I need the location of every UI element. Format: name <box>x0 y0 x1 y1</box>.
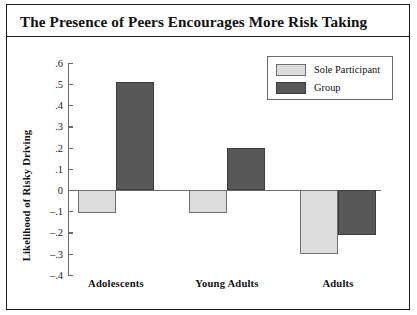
y-axis-tick-label: .5 <box>35 79 63 90</box>
bar-adolescents-group <box>116 82 154 190</box>
x-axis-label-young-adults: Young Adults <box>195 278 258 289</box>
y-axis-tick <box>68 148 73 149</box>
bar-adolescents-sole-participant <box>78 190 116 213</box>
legend-swatch-icon-sole-participant <box>276 64 306 76</box>
bar-adults-group <box>338 190 376 235</box>
bar-adults-sole-participant <box>300 190 338 254</box>
y-axis-tick-label: –.1 <box>35 206 63 217</box>
y-axis-tick-label: .6 <box>35 57 63 68</box>
y-axis-tick <box>68 126 73 127</box>
y-axis-tick <box>68 169 73 170</box>
y-axis-tick <box>68 63 73 64</box>
y-axis-tick <box>68 190 73 191</box>
chart-figure: The Presence of Peers Encourages More Ri… <box>0 0 417 315</box>
y-axis-tick-label: –.4 <box>35 269 63 280</box>
y-axis-tick-label: .1 <box>35 163 63 174</box>
y-axis-tick <box>68 105 73 106</box>
plot-area: .6.5.4.3.2.10–.1–.2–.3–.4 AdolescentsYou… <box>0 0 417 315</box>
bar-young-adults-sole-participant <box>189 190 227 213</box>
y-axis-title: Likelihood of Risky Driving <box>21 116 32 276</box>
y-axis-tick-label: .4 <box>35 100 63 111</box>
chart-legend: Sole Participant Group <box>267 56 393 100</box>
legend-label-group: Group <box>314 81 341 95</box>
legend-label-sole-participant: Sole Participant <box>314 63 380 77</box>
y-axis-tick-label: –.3 <box>35 248 63 259</box>
y-axis-tick-label: .3 <box>35 121 63 132</box>
legend-swatch-icon-group <box>276 82 306 94</box>
y-axis-tick <box>68 232 73 233</box>
bar-young-adults-group <box>227 148 265 190</box>
y-axis-tick-label: 0 <box>35 185 63 196</box>
y-axis-tick <box>68 254 73 255</box>
y-axis-tick <box>68 211 73 212</box>
x-axis-label-adults: Adults <box>322 278 353 289</box>
y-axis-tick <box>68 275 73 276</box>
x-axis-label-adolescents: Adolescents <box>88 278 144 289</box>
y-axis-tick <box>68 84 73 85</box>
y-axis-tick-label: –.2 <box>35 227 63 238</box>
y-axis-tick-label: .2 <box>35 142 63 153</box>
